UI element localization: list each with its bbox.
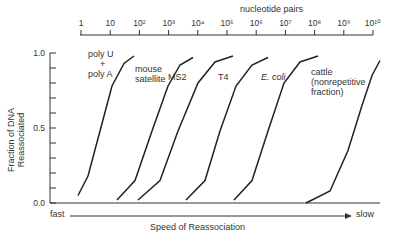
svg-text:10¹⁰: 10¹⁰ [365,18,381,28]
svg-text:T4: T4 [218,72,229,82]
slow-label: slow [356,209,375,219]
svg-text:10⁵: 10⁵ [221,18,234,28]
svg-text:poly A: poly A [88,69,113,79]
svg-text:cattle: cattle [311,67,333,77]
fast-label: fast [50,209,65,219]
svg-text:0.5: 0.5 [33,123,45,133]
x-axis-label: Speed of Reassociation [150,222,245,232]
y-axis-label: Fraction of DNAReassociated [6,108,26,172]
svg-text:0.0: 0.0 [33,198,45,208]
svg-text:10²: 10² [133,18,145,28]
svg-text:satellite: satellite [135,74,166,84]
svg-text:10⁶: 10⁶ [250,18,263,28]
svg-text:10⁷: 10⁷ [279,18,292,28]
top-axis-label: nucleotide pairs [240,4,304,14]
svg-text:1.0: 1.0 [33,48,45,58]
svg-text:mouse: mouse [135,64,162,74]
svg-text:MS2: MS2 [168,72,187,82]
svg-text:poly U: poly U [88,49,114,59]
svg-text:1: 1 [79,18,84,28]
svg-text:+: + [100,59,105,69]
svg-text:10³: 10³ [162,18,174,28]
svg-text:10: 10 [105,18,115,28]
svg-text:10⁴: 10⁴ [191,18,204,28]
cot-curve-chart: nucleotide pairs 11010²10³10⁴10⁵10⁶10⁷10… [0,0,393,237]
top-axis: 11010²10³10⁴10⁵10⁶10⁷10⁸10⁹10¹⁰ [79,18,382,35]
svg-text:(nonrepetitive: (nonrepetitive [311,77,366,87]
svg-text:10⁹: 10⁹ [337,18,350,28]
svg-text:fraction): fraction) [311,87,344,97]
svg-text:E. coli: E. coli [261,72,287,82]
series-labels: poly U+poly AmousesatelliteMS2T4E. colic… [88,49,366,97]
svg-text:10⁸: 10⁸ [308,18,321,28]
y-axis: 0.00.51.0 [33,48,56,208]
